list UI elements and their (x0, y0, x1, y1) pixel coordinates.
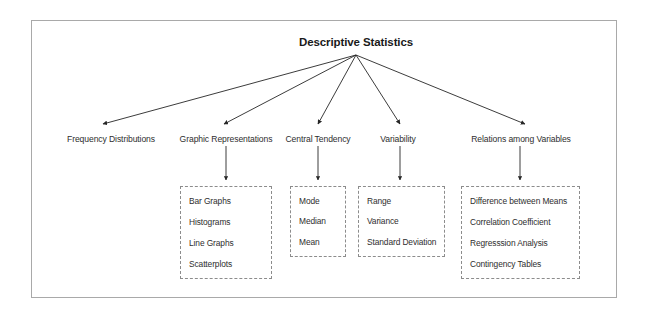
category-label-frequency-distributions: Frequency Distributions (67, 134, 155, 144)
leaf-item: Scatterplots (181, 259, 271, 269)
leaf-item: Range (359, 196, 444, 206)
leaf-item: Bar Graphs (181, 196, 271, 206)
diagram-canvas: Descriptive Statistics Frequency Distrib… (0, 0, 650, 318)
category-label-variability: Variability (380, 134, 416, 144)
leaf-box-central-tendency: Mode Median Mean (290, 186, 346, 257)
category-label-central-tendency: Central Tendency (285, 134, 350, 144)
leaf-item: Contingency Tables (462, 259, 579, 269)
leaf-item: Line Graphs (181, 238, 271, 248)
leaf-item: Histograms (181, 217, 271, 227)
leaf-box-graphic-representations: Bar Graphs Histograms Line Graphs Scatte… (180, 186, 272, 279)
leaf-box-variability: Range Variance Standard Deviation (358, 186, 445, 257)
category-label-graphic-representations: Graphic Representations (180, 134, 273, 144)
leaf-item: Mode (291, 196, 345, 206)
category-label-relations-among-variables: Relations among Variables (471, 134, 571, 144)
root-node-label: Descriptive Statistics (299, 36, 413, 48)
leaf-item: Variance (359, 216, 444, 226)
leaf-box-relations-among-variables: Difference between Means Correlation Coe… (461, 186, 580, 279)
leaf-item: Correlation Coefficient (462, 217, 579, 227)
leaf-item: Median (291, 216, 345, 226)
leaf-item: Standard Deviation (359, 237, 444, 247)
leaf-item: Mean (291, 237, 345, 247)
leaf-item: Difference between Means (462, 196, 579, 206)
leaf-item: Regresssion Analysis (462, 238, 579, 248)
